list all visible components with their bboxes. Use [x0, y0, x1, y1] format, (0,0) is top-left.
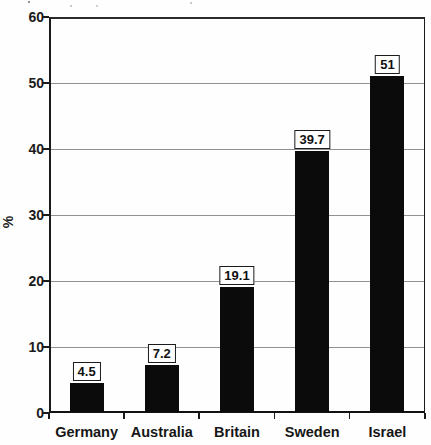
value-label-sweden: 39.7 — [295, 130, 330, 149]
x-tick-mark-0 — [48, 413, 50, 419]
value-label-britain: 19.1 — [219, 266, 254, 285]
y-tick-label-30: 30 — [4, 208, 44, 222]
gridline-30 — [51, 215, 424, 216]
y-tick-mark-40 — [43, 148, 49, 150]
value-label-germany: 4.5 — [73, 362, 101, 381]
gridline-50 — [51, 83, 424, 84]
bar-germany — [70, 383, 104, 412]
bar-chart: % 01020304050604.5Germany7.2Australia19.… — [0, 0, 431, 445]
x-tick-mark-3 — [274, 413, 276, 419]
y-tick-mark-30 — [43, 214, 49, 216]
x-tick-mark-1 — [123, 413, 125, 419]
y-tick-label-0: 0 — [4, 406, 44, 420]
y-tick-label-40: 40 — [4, 142, 44, 156]
y-tick-mark-10 — [43, 346, 49, 348]
y-tick-mark-50 — [43, 82, 49, 84]
gridline-40 — [51, 149, 424, 150]
bar-britain — [220, 287, 254, 412]
y-tick-label-50: 50 — [4, 76, 44, 90]
bar-australia — [145, 365, 179, 412]
x-tick-mark-4 — [349, 413, 351, 419]
x-category-label-israel: Israel — [342, 424, 431, 440]
y-tick-label-60: 60 — [4, 10, 44, 24]
value-label-australia: 7.2 — [148, 344, 176, 363]
x-tick-mark-5 — [424, 413, 426, 419]
y-tick-mark-20 — [43, 280, 49, 282]
value-label-israel: 51 — [375, 55, 399, 74]
bar-israel — [370, 76, 404, 412]
x-tick-mark-2 — [198, 413, 200, 419]
y-tick-label-10: 10 — [4, 340, 44, 354]
y-tick-mark-60 — [43, 16, 49, 18]
scan-noise-artifact — [28, 1, 30, 3]
y-tick-label-20: 20 — [4, 274, 44, 288]
bar-sweden — [295, 151, 329, 412]
